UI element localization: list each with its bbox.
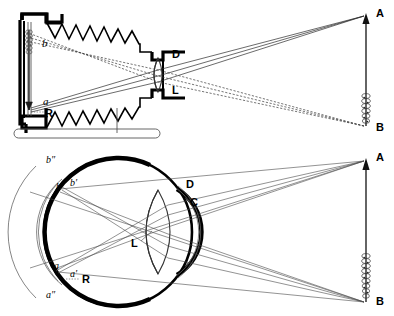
camera-label-L: L — [172, 84, 179, 96]
optics-diagram: b a R D L A B — [0, 0, 394, 316]
eye-label-b-prime: b′ — [70, 177, 78, 188]
camera-baseboard — [14, 129, 160, 138]
eye-label-a-prime: a′ — [70, 268, 78, 279]
figure-container: b a R D L A B — [0, 0, 394, 316]
camera-label-a: a — [43, 95, 49, 107]
eye-chief-ray-A — [60, 161, 364, 189]
eye-label-a-double-prime: a″ — [46, 289, 56, 300]
eye-label-C: C — [190, 196, 198, 208]
camera-label-b: b — [42, 37, 48, 49]
camera-rays-from-A — [31, 16, 364, 112]
camera-label-D: D — [172, 48, 180, 60]
camera-label-B: B — [376, 121, 384, 133]
eye-panel: b″ b′ b a a′ a″ R D C L A B — [8, 151, 384, 307]
eye-label-D: D — [186, 178, 194, 190]
camera-rays-from-B — [31, 34, 364, 126]
eye-label-b: b — [56, 181, 61, 192]
object-arrow-eye — [362, 158, 371, 302]
camera-panel: b a R D L A B — [14, 7, 384, 138]
eye-crystalline-lens — [146, 190, 170, 274]
eye-label-L: L — [131, 237, 138, 249]
eye-outer-reference-arc — [8, 166, 36, 298]
object-arrow-camera-texture — [362, 94, 371, 124]
camera-bellows-lower — [47, 98, 152, 127]
object-arrow-camera — [362, 13, 371, 126]
camera-label-A: A — [376, 7, 384, 19]
camera-bellows-upper — [47, 23, 152, 52]
eye-label-B: B — [376, 295, 384, 307]
eye-label-R: R — [82, 273, 90, 285]
eye-label-b-double-prime: b″ — [46, 154, 56, 165]
eye-label-A: A — [376, 151, 384, 163]
eye-label-a: a — [54, 260, 59, 271]
camera-back-body — [20, 14, 62, 128]
camera-label-R: R — [45, 107, 53, 119]
